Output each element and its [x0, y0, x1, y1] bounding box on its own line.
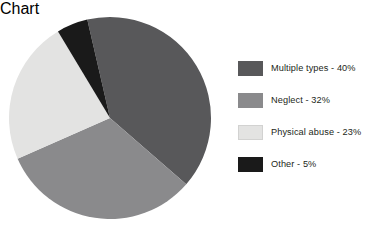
legend-label-physical-abuse: Physical abuse - 23%	[271, 127, 361, 137]
legend-label-other: Other - 5%	[271, 159, 316, 169]
legend-item: Other - 5%	[238, 148, 372, 180]
legend-item: Neglect - 32%	[238, 84, 372, 116]
pie-chart-plot-area: Multiple types - 40%Neglect - 32%Physica…	[0, 0, 232, 232]
legend-swatch-physical-abuse	[238, 125, 263, 140]
pie-slice-group: Multiple types - 40%Neglect - 32%Physica…	[9, 17, 211, 219]
legend-item: Physical abuse - 23%	[238, 116, 372, 148]
legend-swatch-neglect	[238, 93, 263, 108]
pie-chart-svg: Multiple types - 40%Neglect - 32%Physica…	[0, 0, 232, 232]
legend-item: Multiple types - 40%	[238, 52, 372, 84]
legend-swatch-multiple-types	[238, 61, 263, 76]
legend-label-multiple-types: Multiple types - 40%	[271, 63, 356, 73]
legend-swatch-other	[238, 157, 263, 172]
chart-legend: Multiple types - 40% Neglect - 32% Physi…	[238, 52, 372, 180]
pie-chart-figure: Multiple types - 40%Neglect - 32%Physica…	[0, 0, 372, 232]
legend-label-neglect: Neglect - 32%	[271, 95, 330, 105]
